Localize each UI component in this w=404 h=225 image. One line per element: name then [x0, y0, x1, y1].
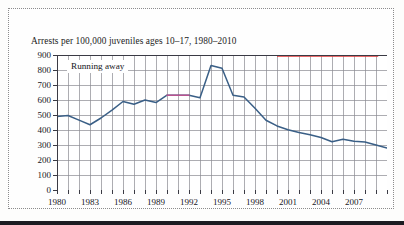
- y-axis-tick-mark: [53, 175, 57, 176]
- x-axis-tick-mark: [101, 190, 102, 194]
- x-axis-tick-mark: [299, 190, 300, 194]
- x-axis-tick-mark: [277, 190, 278, 194]
- x-axis-tick-mark: [79, 190, 80, 194]
- x-axis-tick-label: 1998: [246, 198, 264, 207]
- y-axis-tick-label: 0: [11, 186, 51, 195]
- y-axis-tick-label: 300: [11, 141, 51, 150]
- x-axis-tick-label: 1989: [147, 198, 165, 207]
- chart-plot-area: [57, 55, 387, 190]
- x-axis-tick-mark: [112, 190, 113, 194]
- x-axis-tick-mark: [321, 190, 322, 194]
- y-axis-tick-mark: [53, 70, 57, 71]
- y-axis-tick-label: 500: [11, 111, 51, 120]
- x-axis-tick-label: 2004: [312, 198, 330, 207]
- page-bottom-bar: [0, 221, 404, 225]
- x-axis-tick-mark: [365, 190, 366, 194]
- y-axis-tick-mark: [53, 55, 57, 56]
- x-axis-tick-mark: [343, 190, 344, 194]
- x-axis-tick-mark: [134, 190, 135, 194]
- x-axis-tick-mark: [57, 190, 58, 194]
- y-axis-tick-mark: [53, 160, 57, 161]
- x-axis-tick-mark: [376, 190, 377, 194]
- x-axis-tick-mark: [145, 190, 146, 194]
- x-axis-tick-mark: [288, 190, 289, 194]
- x-axis-tick-mark: [167, 190, 168, 194]
- x-axis-tick-label: 1986: [114, 198, 132, 207]
- x-axis-tick-mark: [266, 190, 267, 194]
- y-axis-tick-mark: [53, 85, 57, 86]
- y-axis-tick-mark: [53, 115, 57, 116]
- x-axis-tick-mark: [189, 190, 190, 194]
- x-axis-tick-mark: [156, 190, 157, 194]
- x-axis-tick-mark: [332, 190, 333, 194]
- y-axis-tick-label: 400: [11, 126, 51, 135]
- x-axis-tick-mark: [255, 190, 256, 194]
- x-axis-tick-label: 2001: [279, 198, 297, 207]
- series-label-running-away: Running away: [67, 60, 128, 73]
- x-axis-tick-label: 1992: [180, 198, 198, 207]
- y-axis-tick-label: 700: [11, 81, 51, 90]
- y-axis-tick-label: 900: [11, 51, 51, 60]
- x-axis-tick-label: 2007: [345, 198, 363, 207]
- figure-frame: Arrests per 100,000 juveniles ages 10–17…: [8, 8, 394, 209]
- x-axis-tick-mark: [123, 190, 124, 194]
- x-axis-tick-mark: [211, 190, 212, 194]
- y-axis-tick-mark: [53, 130, 57, 131]
- vertical-gridlines: [57, 55, 387, 190]
- y-axis-tick-mark: [53, 145, 57, 146]
- y-axis-tick-label: 600: [11, 96, 51, 105]
- x-axis-tick-label: 1995: [213, 198, 231, 207]
- x-axis-tick-label: 1983: [81, 198, 99, 207]
- x-axis-tick-mark: [233, 190, 234, 194]
- line-chart-svg: [57, 55, 387, 190]
- page-title: Arrests per 100,000 juveniles ages 10–17…: [31, 36, 236, 46]
- x-axis-tick-mark: [244, 190, 245, 194]
- x-axis-tick-label: 1980: [48, 198, 66, 207]
- y-axis-tick-label: 100: [11, 171, 51, 180]
- x-axis-tick-mark: [68, 190, 69, 194]
- y-axis-tick-label: 200: [11, 156, 51, 165]
- y-axis-tick-label: 800: [11, 66, 51, 75]
- x-axis-tick-mark: [90, 190, 91, 194]
- x-axis-tick-mark: [222, 190, 223, 194]
- x-axis-tick-mark: [387, 190, 388, 194]
- x-axis-tick-mark: [200, 190, 201, 194]
- y-axis-tick-mark: [53, 100, 57, 101]
- x-axis-tick-mark: [178, 190, 179, 194]
- figure-page: Arrests per 100,000 juveniles ages 10–17…: [0, 0, 404, 225]
- x-axis-tick-mark: [354, 190, 355, 194]
- x-axis-tick-mark: [310, 190, 311, 194]
